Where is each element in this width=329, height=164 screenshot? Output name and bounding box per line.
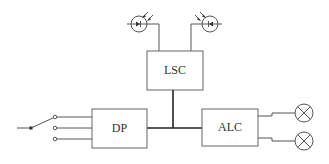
lamp-bottom (258, 132, 313, 150)
photodiode-icon (127, 12, 159, 32)
block-alc: ALC (202, 109, 258, 146)
lamp-icon (295, 104, 313, 122)
wire-alc-lamp-bottom (258, 138, 295, 141)
switch-icon (17, 115, 57, 141)
lamp-top (258, 104, 313, 122)
photodiode-left (127, 12, 159, 32)
lamp-icon (295, 132, 313, 150)
selector-switch (17, 115, 92, 141)
block-diagram: LSC DP ALC (0, 0, 329, 164)
block-dp-label: DP (112, 121, 128, 135)
block-lsc: LSC (147, 51, 203, 90)
block-dp: DP (92, 109, 147, 148)
wire-alc-lamp-top (258, 113, 295, 116)
photodiode-icon (191, 12, 222, 32)
block-alc-label: ALC (218, 120, 242, 134)
block-lsc-label: LSC (164, 63, 186, 77)
photodiode-right (191, 12, 222, 32)
